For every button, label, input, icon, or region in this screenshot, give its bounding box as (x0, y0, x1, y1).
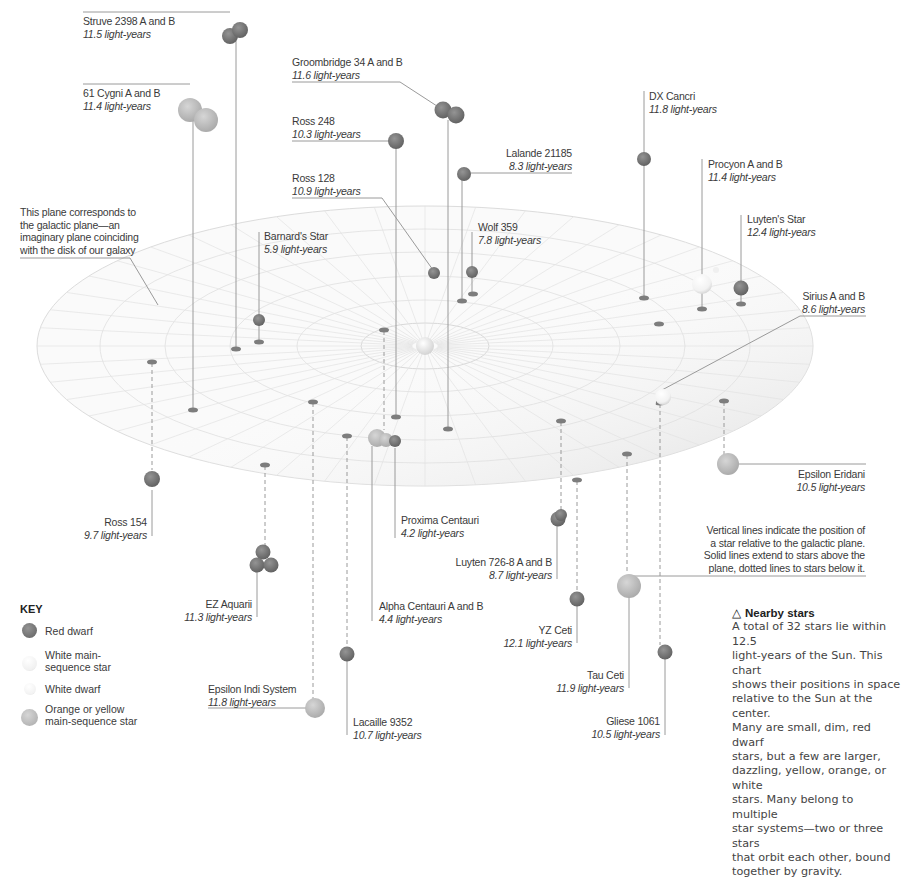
star-label-groombridge-34: Groombridge 34 A and B11.6 light-years (292, 56, 403, 82)
vertical-lines-note: Vertical lines indicate the position of … (704, 524, 865, 574)
groombridge-34-b-icon (448, 107, 465, 124)
star-label-wolf-359: Wolf 3597.8 light-years (478, 221, 541, 247)
ross-128-icon (428, 267, 440, 279)
tau-ceti-icon (617, 574, 641, 598)
struve-2398-b-icon (232, 22, 248, 38)
nearby-stars-description: △Nearby stars A total of 32 stars lie wi… (732, 606, 902, 880)
ez-aquarii-c-icon (264, 558, 279, 573)
star-label-proxima-centauri: Proxima Centauri4.2 light-years (401, 514, 479, 540)
orange-yellow-star-icon (21, 709, 38, 726)
star-label-sirius: Sirius A and B8.6 light-years (802, 290, 865, 316)
star-label-ross-248: Ross 24810.3 light-years (292, 115, 361, 141)
key-item-orange-yellow: Orange or yellowmain-sequence star (20, 703, 170, 735)
star-label-luyten-726-8: Luyten 726-8 A and B8.7 light-years (456, 556, 552, 582)
star-label-barnards-star: Barnard's Star5.9 light-years (264, 230, 328, 256)
star-label-luytens-star: Luyten's Star12.4 light-years (747, 213, 816, 239)
galactic-plane-note: This plane corresponds to the galactic p… (20, 206, 139, 256)
star-label-lacaille-9352: Lacaille 935210.7 light-years (353, 716, 422, 742)
gliese-1061-icon (658, 645, 673, 660)
yz-ceti-icon (570, 592, 585, 607)
star-label-tau-ceti: Tau Ceti11.9 light-years (556, 669, 624, 695)
white-dwarf-icon (24, 683, 36, 695)
star-label-struve-2398: Struve 2398 A and B11.5 light-years (83, 15, 175, 41)
triangle-icon: △ (732, 607, 741, 619)
key-item-white-main-sequence: White main-sequence star (20, 649, 170, 681)
star-label-epsilon-indi: Epsilon Indi System11.8 light-years (208, 683, 296, 709)
star-label-61-cygni: 61 Cygni A and B11.4 light-years (83, 87, 160, 113)
star-label-ross-154: Ross 1549.7 light-years (84, 516, 147, 542)
star-label-ross-128: Ross 12810.9 light-years (292, 172, 361, 198)
star-label-alpha-centauri: Alpha Centauri A and B4.4 light-years (379, 600, 483, 626)
dx-cancri-icon (637, 152, 651, 166)
procyon-a-icon (692, 274, 712, 294)
key-item-white-dwarf: White dwarf (20, 681, 170, 703)
lacaille-9352-icon (340, 647, 355, 662)
proxima-centauri-icon (389, 435, 401, 447)
sun-icon (416, 337, 434, 355)
luyten-726-8-b-icon (555, 509, 567, 521)
legend-key: KEY Red dwarf White main-sequence star W… (20, 603, 170, 735)
61-cygni-b-icon (194, 108, 218, 132)
lalande-21185-icon (457, 167, 471, 181)
star-label-gliese-1061: Gliese 106110.5 light-years (591, 715, 660, 741)
epsilon-eridani-icon (717, 453, 739, 475)
star-label-procyon: Procyon A and B11.4 light-years (708, 158, 783, 184)
key-title: KEY (20, 603, 170, 615)
star-label-ez-aquarii: EZ Aquarii11.3 light-years (184, 598, 252, 624)
star-label-lalande-21185: Lalande 211858.3 light-years (506, 147, 572, 173)
wolf-359-icon (466, 266, 478, 278)
ross-154-icon (144, 471, 160, 487)
epsilon-indi-icon (305, 698, 325, 718)
key-item-red-dwarf: Red dwarf (20, 623, 170, 649)
star-label-yz-ceti: YZ Ceti12.1 light-years (503, 624, 572, 650)
barnards-star-icon (253, 314, 265, 326)
procyon-b-icon (713, 267, 719, 273)
ez-aquarii-b-icon (250, 558, 265, 573)
star-label-dx-cancri: DX Cancri11.8 light-years (649, 90, 717, 116)
red-dwarf-icon (22, 623, 37, 638)
sirius-a-icon (655, 389, 671, 405)
description-heading: △Nearby stars (732, 606, 902, 620)
ez-aquarii-a-icon (256, 545, 271, 560)
sirius-b-icon (648, 398, 656, 406)
white-main-sequence-icon (22, 656, 37, 671)
star-label-epsilon-eridani: Epsilon Eridani10.5 light-years (796, 468, 865, 494)
ross-248-icon (388, 133, 404, 149)
luytens-star-icon (734, 281, 749, 296)
